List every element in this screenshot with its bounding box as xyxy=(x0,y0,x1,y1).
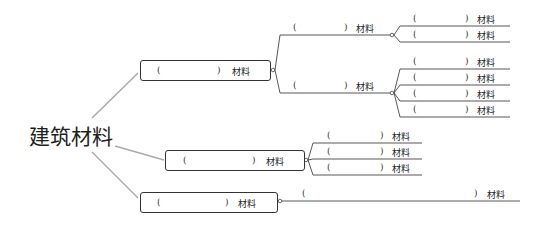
close-paren: ) xyxy=(465,29,469,39)
close-paren: ) xyxy=(380,130,384,140)
leaf-suffix: 材料 xyxy=(477,13,495,26)
branch-suffix: 材料 xyxy=(238,197,256,210)
leaf-suffix: 材料 xyxy=(477,104,495,117)
close-paren: ) xyxy=(344,80,348,90)
branch-box-2[interactable]: ( ) 材料 xyxy=(165,150,305,171)
close-paren: ) xyxy=(465,56,469,66)
branch-suffix: 材料 xyxy=(232,65,250,78)
close-paren: ) xyxy=(465,13,469,23)
open-paren: ( xyxy=(413,13,417,23)
open-paren: ( xyxy=(157,65,161,75)
branch-box-1[interactable]: ( ) 材料 xyxy=(140,60,271,81)
branch-box-3[interactable]: ( ) 材料 xyxy=(140,192,278,213)
close-paren: ) xyxy=(252,155,256,165)
open-paren: ( xyxy=(157,197,161,207)
leaf-suffix: 材料 xyxy=(392,130,410,143)
open-paren: ( xyxy=(413,72,417,82)
subtopic-suffix: 材料 xyxy=(356,22,374,35)
open-paren: ( xyxy=(302,188,306,198)
close-paren: ) xyxy=(380,162,384,172)
leaf-suffix: 材料 xyxy=(477,72,495,85)
leaf-suffix: 材料 xyxy=(487,188,505,201)
open-paren: ( xyxy=(413,29,417,39)
open-paren: ( xyxy=(327,162,331,172)
close-paren: ) xyxy=(474,188,478,198)
leaf-suffix: 材料 xyxy=(477,56,495,69)
close-paren: ) xyxy=(225,197,229,207)
subtopic-suffix: 材料 xyxy=(356,80,374,93)
leaf-suffix: 材料 xyxy=(477,29,495,42)
root-topic[interactable]: 建筑材料 xyxy=(29,120,113,150)
branch-suffix: 材料 xyxy=(266,155,284,168)
close-paren: ) xyxy=(344,22,348,32)
open-paren: ( xyxy=(327,130,331,140)
leaf-suffix: 材料 xyxy=(477,88,495,101)
open-paren: ( xyxy=(413,88,417,98)
open-paren: ( xyxy=(413,104,417,114)
close-paren: ) xyxy=(380,146,384,156)
leaf-suffix: 材料 xyxy=(392,146,410,159)
open-paren: ( xyxy=(183,155,187,165)
leaf-suffix: 材料 xyxy=(392,162,410,175)
close-paren: ) xyxy=(465,72,469,82)
open-paren: ( xyxy=(413,56,417,66)
close-paren: ) xyxy=(217,65,221,75)
open-paren: ( xyxy=(293,22,297,32)
close-paren: ) xyxy=(465,104,469,114)
open-paren: ( xyxy=(293,80,297,90)
close-paren: ) xyxy=(465,88,469,98)
open-paren: ( xyxy=(327,146,331,156)
